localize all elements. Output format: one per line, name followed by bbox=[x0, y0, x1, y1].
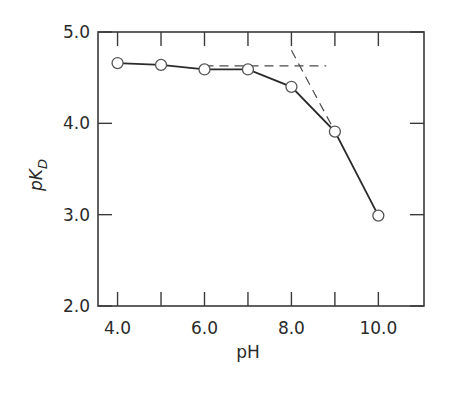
dashed-extrapolation-lines bbox=[204, 50, 334, 131]
y-axis-label: pKD bbox=[26, 159, 50, 192]
axis-ticks bbox=[98, 32, 424, 306]
y-axis-label-subscript: D bbox=[35, 159, 50, 169]
plot-border bbox=[98, 32, 424, 306]
data-point-marker bbox=[329, 126, 340, 137]
x-tick-label: 10.0 bbox=[359, 318, 397, 338]
data-point-marker bbox=[286, 81, 297, 92]
y-tick-label: 2.0 bbox=[63, 296, 90, 316]
data-point-marker bbox=[199, 64, 210, 75]
chart: 4.06.08.010.02.03.04.05.0 pH pKD bbox=[0, 0, 454, 394]
data-point-marker bbox=[112, 58, 123, 69]
y-axis-label-main: pK bbox=[26, 167, 46, 192]
data-point-marker bbox=[242, 64, 253, 75]
x-tick-label: 6.0 bbox=[191, 318, 218, 338]
data-point-marker bbox=[373, 210, 384, 221]
y-tick-label: 5.0 bbox=[63, 22, 90, 42]
data-point-marker bbox=[156, 59, 167, 70]
x-tick-label: 8.0 bbox=[278, 318, 305, 338]
data-series bbox=[112, 58, 384, 222]
plot-frame bbox=[98, 32, 424, 306]
y-tick-label: 3.0 bbox=[63, 205, 90, 225]
series-line bbox=[118, 63, 379, 216]
x-axis-label: pH bbox=[236, 342, 260, 362]
y-tick-label: 4.0 bbox=[63, 113, 90, 133]
x-tick-label: 4.0 bbox=[104, 318, 131, 338]
dashed-line bbox=[291, 50, 334, 131]
